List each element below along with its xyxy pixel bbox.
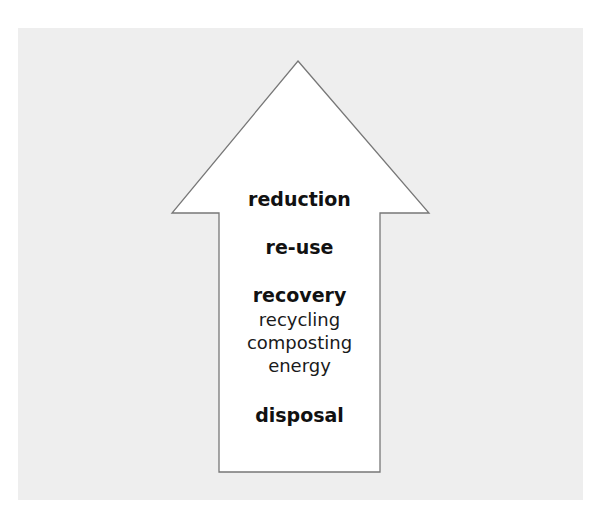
up-arrow-shape [0,0,603,530]
level-disposal: disposal [219,406,380,425]
level-reduction: reduction [219,190,380,209]
level-re-use: re-use [219,238,380,257]
recovery-sub-recycling: recycling [219,311,380,329]
recovery-sub-composting: composting [219,334,380,352]
level-recovery: recovery [219,286,380,305]
recovery-sub-energy: energy [219,357,380,375]
